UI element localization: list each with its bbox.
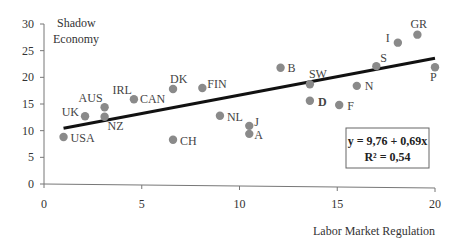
r-squared: R² = 0,54 [364,150,410,164]
data-point [306,80,314,88]
data-point [245,130,253,138]
point-label-b: B [288,61,296,75]
y-tick-label: 0 [28,177,34,191]
point-label-aus: AUS [79,91,103,105]
data-point [245,122,253,130]
data-point [81,112,89,120]
y-axis-title: Shadow Economy [53,16,99,46]
x-tick-label: 10 [234,197,246,211]
x-tick-label: 5 [139,197,145,211]
point-label-a: A [254,128,263,142]
equation-box: y = 9,76 + 0,69x R² = 0,54 [346,128,429,168]
y-tick-label: 25 [22,44,34,58]
point-label-dk: DK [170,72,188,86]
data-point [372,62,380,70]
point-label-can: CAN [140,92,166,106]
point-label-nz: NZ [108,119,124,133]
y-tick-label: 10 [22,124,34,138]
x-tick-label: 20 [429,197,441,211]
point-label-uk: UK [62,105,80,119]
data-point [335,101,343,109]
data-point [413,30,421,38]
point-label-n: N [365,79,374,93]
data-point [198,84,206,92]
data-point [169,136,177,144]
point-label-f: F [347,99,354,113]
point-label-irl: IRL [113,83,132,97]
point-label-ch: CH [180,134,197,148]
scatter-chart: 05101520253005101520 USAUKAUSNZIRLCANDKC… [0,0,464,244]
data-point [353,82,361,90]
point-label-usa: USA [71,131,95,145]
point-label-s: S [380,51,387,65]
point-label-d: D [318,95,327,109]
x-tick-label: 0 [41,197,47,211]
x-tick-label: 15 [331,197,343,211]
data-point [306,97,314,105]
point-label-p: P [430,70,437,84]
regression-equation: y = 9,76 + 0,69x [348,134,428,148]
data-point [59,133,67,141]
y-tick-label: 5 [28,150,34,164]
point-label-fin: FIN [207,77,227,91]
x-axis-title: Labor Market Regulation [313,224,435,238]
y-axis-title-line2: Economy [53,32,99,46]
point-label-sw: SW [309,67,328,81]
point-label-i: I [386,31,390,45]
point-label-nl: NL [227,110,243,124]
data-point [394,38,402,46]
y-axis-title-line1: Shadow [57,16,96,30]
data-point [169,85,177,93]
point-label-gr: GR [410,17,427,31]
y-tick-label: 30 [22,17,34,31]
data-point [216,112,224,120]
point-label-j: J [254,115,259,129]
data-point [276,64,284,72]
y-tick-label: 20 [22,70,34,84]
y-tick-label: 15 [22,97,34,111]
